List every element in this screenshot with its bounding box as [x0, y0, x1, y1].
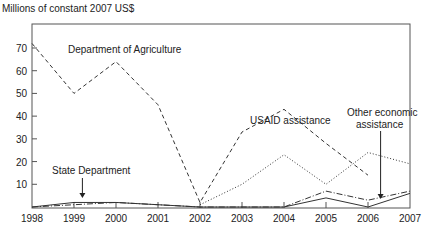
annotation-other-economic-line2: assistance [356, 119, 404, 130]
x-tick-label: 2002 [189, 213, 212, 224]
chart: Millions of constant 2007 US$ 1020304050… [0, 0, 427, 236]
annotation-agriculture: Department of Agriculture [68, 44, 182, 55]
x-tick-label: 1999 [63, 213, 86, 224]
y-tick-label: 40 [16, 111, 28, 122]
y-tick-label: 20 [16, 157, 28, 168]
series-line-other-economic-assistance [32, 191, 410, 207]
annotation-usaid: USAID assistance [250, 115, 331, 126]
x-tick-label: 2006 [357, 213, 380, 224]
y-tick-label: 50 [16, 88, 28, 99]
x-tick-label: 2001 [147, 213, 170, 224]
y-tick-label: 60 [16, 66, 28, 77]
y-tick-label: 10 [16, 179, 28, 190]
x-tick-label: 2003 [231, 213, 254, 224]
y-axis: 10203040506070 [16, 43, 37, 190]
y-axis-label: Millions of constant 2007 US$ [2, 3, 135, 14]
x-tick-label: 2004 [273, 213, 296, 224]
arrow-head-icon [79, 193, 85, 198]
series-line-usaid-assistance [200, 152, 410, 204]
x-tick-label: 2007 [399, 213, 422, 224]
x-tick-label: 1998 [21, 213, 44, 224]
y-tick-label: 70 [16, 43, 28, 54]
x-tick-label: 2000 [105, 213, 128, 224]
series-group [32, 43, 410, 207]
y-tick-label: 30 [16, 134, 28, 145]
annotation-other-economic-line1: Other economic [347, 107, 418, 118]
annotation-state-department: State Department [52, 165, 131, 176]
series-line-state-department [32, 193, 410, 207]
x-tick-label: 2005 [315, 213, 338, 224]
